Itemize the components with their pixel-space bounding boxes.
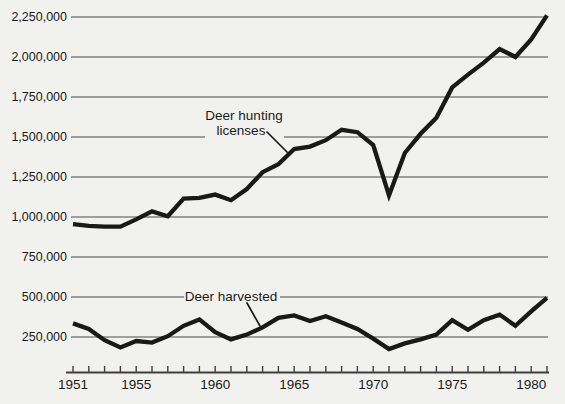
data-lines (73, 15, 547, 349)
y-tick-label: 1,750,000 (11, 90, 67, 104)
y-tick-label: 250,000 (22, 330, 67, 344)
x-tick-label: 1965 (279, 377, 309, 392)
y-axis-labels: 2,250,0002,000,0001,750,0001,500,0001,25… (11, 10, 67, 344)
harvested-annotation-pointer (247, 303, 260, 326)
annotation-licenses: Deer hunting licenses (205, 107, 288, 153)
x-axis: 1951195519601965197019751980 (58, 366, 549, 392)
x-tick-label: 1975 (437, 377, 467, 392)
x-tick-label: 1960 (200, 377, 230, 392)
y-tick-label: 1,000,000 (11, 210, 67, 224)
licenses-annotation-line2: licenses (217, 123, 266, 138)
y-tick-label: 750,000 (22, 250, 67, 264)
harvested-line (73, 298, 547, 349)
harvested-annotation-label: Deer harvested (185, 289, 277, 304)
y-tick-label: 1,500,000 (11, 130, 67, 144)
gridlines (71, 17, 548, 337)
y-tick-label: 2,250,000 (11, 10, 67, 24)
x-tick-label: 1970 (358, 377, 388, 392)
y-tick-label: 1,250,000 (11, 170, 67, 184)
y-tick-label: 2,000,000 (11, 50, 67, 64)
licenses-annotation-line1: Deer hunting (205, 108, 282, 123)
x-tick-label: 1980 (516, 377, 546, 392)
deer-licenses-harvest-chart: 2,250,0002,000,0001,750,0001,500,0001,25… (0, 0, 565, 404)
y-tick-label: 500,000 (22, 290, 67, 304)
x-tick-label: 1951 (58, 377, 88, 392)
licenses-line (73, 15, 547, 226)
chart-canvas: 2,250,0002,000,0001,750,0001,500,0001,25… (0, 0, 565, 404)
x-tick-label: 1955 (121, 377, 151, 392)
